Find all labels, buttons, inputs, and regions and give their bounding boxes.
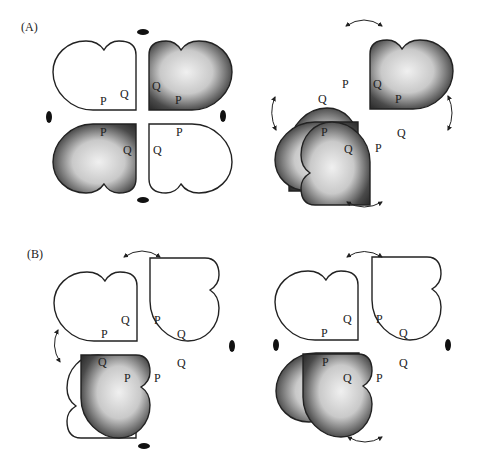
- piece-b-right-top-left: [275, 271, 358, 340]
- label-q: Q: [153, 143, 162, 157]
- label-p: P: [154, 371, 161, 385]
- label-q: Q: [397, 126, 406, 140]
- label-p: P: [322, 355, 329, 369]
- label-p: P: [101, 327, 108, 341]
- label-q: Q: [177, 356, 186, 370]
- diagram-b-left: Q P P Q Q P Q P: [54, 251, 235, 449]
- mirror-marker-bottom: [138, 443, 150, 449]
- rotation-arrow-bottom: [348, 437, 382, 442]
- mirror-marker-bottom: [137, 197, 149, 203]
- mirror-marker-left: [46, 111, 52, 123]
- label-p: P: [376, 312, 383, 326]
- piece-a-right-bottom-right: [301, 122, 370, 205]
- label-q: Q: [399, 356, 408, 370]
- mirror-marker-top: [137, 29, 149, 35]
- piece-b-right-bottom-right: [303, 354, 372, 437]
- rotation-arrow-left: [272, 97, 276, 130]
- label-q: Q: [120, 87, 129, 101]
- label-p: P: [100, 125, 107, 139]
- label-p: P: [175, 93, 182, 107]
- mirror-marker-right: [220, 110, 226, 122]
- label-q: Q: [121, 313, 130, 327]
- label-p: P: [376, 371, 383, 385]
- piece-b-left-bottom-right: [81, 355, 150, 438]
- mirror-marker-right: [445, 339, 451, 351]
- piece-b-left-top-left: [54, 272, 137, 341]
- label-q: Q: [152, 79, 161, 93]
- label-q: Q: [399, 326, 408, 340]
- label-q: Q: [373, 77, 382, 91]
- label-p: P: [124, 371, 131, 385]
- piece-a-left-bottom-right: [149, 124, 232, 193]
- label-p: P: [342, 77, 349, 91]
- rotation-arrow-left: [54, 330, 60, 362]
- label-q: Q: [98, 355, 107, 369]
- diagram-a-right: P Q Q P P Q Q P: [272, 20, 453, 207]
- label-q: Q: [318, 92, 327, 106]
- diagram-b-right: Q P P Q P Q Q P: [273, 252, 451, 443]
- rotation-arrow-right: [448, 96, 452, 130]
- label-p: P: [100, 94, 107, 108]
- label-p: P: [375, 141, 382, 155]
- label-q: Q: [343, 371, 352, 385]
- piece-a-left-top-right: [149, 41, 232, 110]
- figure-canvas: Q P Q P P Q Q P P Q Q P P Q: [0, 0, 477, 468]
- label-p: P: [154, 313, 161, 327]
- rotation-arrow-top: [124, 251, 160, 257]
- diagram-a-left: Q P Q P P Q Q P: [46, 29, 232, 203]
- label-q: Q: [123, 143, 132, 157]
- piece-a-right-top-right: [370, 40, 453, 109]
- rotation-arrow-top: [347, 252, 382, 258]
- label-p: P: [176, 125, 183, 139]
- label-p: P: [321, 326, 328, 340]
- mirror-marker-left: [273, 339, 279, 351]
- label-p: P: [321, 125, 328, 139]
- label-q: Q: [344, 142, 353, 156]
- label-q: Q: [343, 312, 352, 326]
- label-p: P: [395, 92, 402, 106]
- rotation-arrow-top: [346, 20, 382, 26]
- piece-a-left-bottom-left: [53, 124, 136, 193]
- label-q: Q: [177, 327, 186, 341]
- mirror-marker-right: [229, 340, 235, 352]
